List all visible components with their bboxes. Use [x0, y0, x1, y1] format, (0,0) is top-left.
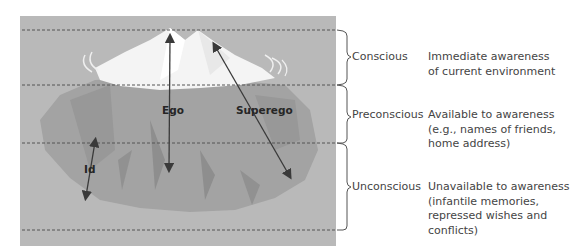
- superego-label: Superego: [236, 103, 293, 117]
- conscious-brace: [337, 30, 351, 85]
- desc-conscious: Immediate awareness of current environme…: [428, 50, 555, 79]
- iceberg-tip: [95, 28, 275, 90]
- level-conscious: Conscious: [352, 50, 408, 63]
- ego-label: Ego: [162, 103, 184, 117]
- id-label: Id: [84, 162, 95, 176]
- preconscious-brace: [337, 85, 351, 143]
- level-preconscious: Preconscious: [352, 108, 424, 121]
- desc-unconscious: Unavailable to awareness (infantile memo…: [428, 180, 569, 238]
- unconscious-brace: [337, 143, 351, 230]
- level-unconscious: Unconscious: [352, 180, 421, 193]
- desc-preconscious: Available to awareness (e.g., names of f…: [428, 108, 556, 152]
